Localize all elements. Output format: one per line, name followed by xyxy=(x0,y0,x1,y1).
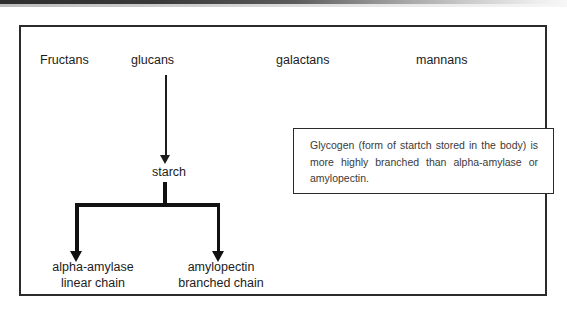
connector-glucans-to-starch-shaft xyxy=(165,75,167,159)
node-label-alpha-amylase-line2: linear chain xyxy=(28,275,158,291)
connector-starch-to-amylopectin-shaft xyxy=(217,203,221,255)
node-label-alpha-amylase: alpha-amylase linear chain xyxy=(28,259,158,291)
node-label-amylopectin-line1: amylopectin xyxy=(154,259,288,275)
node-label-galactans: galactans xyxy=(276,53,330,68)
node-label-amylopectin-line2: branched chain xyxy=(154,275,288,291)
node-label-fructans: Fructans xyxy=(40,53,89,68)
node-label-starch: starch xyxy=(152,165,186,180)
glycogen-note-box: Glycogen (form of startch stored in the … xyxy=(293,128,554,194)
node-label-alpha-amylase-line1: alpha-amylase xyxy=(28,259,158,275)
diagram-frame: Fructans glucans galactans mannans starc… xyxy=(19,25,547,296)
node-label-glucans: glucans xyxy=(131,53,174,68)
connector-starch-to-alpha-amylase-shaft xyxy=(75,203,79,255)
connector-starch-branch-bar xyxy=(75,203,220,207)
connector-glucans-to-starch-arrowhead xyxy=(160,155,170,164)
connector-starch-branch-stem xyxy=(163,182,167,205)
glycogen-note-text: Glycogen (form of startch stored in the … xyxy=(310,137,538,187)
node-label-amylopectin: amylopectin branched chain xyxy=(154,259,288,291)
scan-artifact-top-edge-fade xyxy=(0,4,567,7)
node-label-mannans: mannans xyxy=(416,53,467,68)
